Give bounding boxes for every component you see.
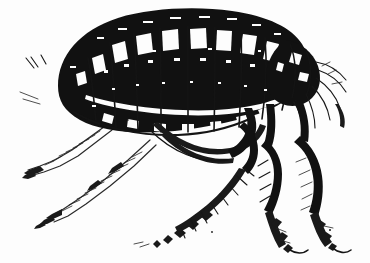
flea-illustration: Flea engraving illustration xyxy=(0,0,370,263)
flea-engraving-svg: Flea engraving illustration xyxy=(0,0,370,263)
